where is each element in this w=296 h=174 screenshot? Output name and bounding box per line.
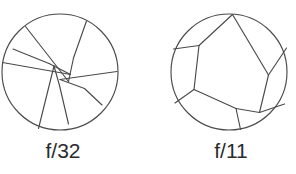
aperture-left-svg [0,0,130,140]
aperture-barrel-circle [2,14,118,130]
aperture-blade [74,21,87,58]
aperture-blade [39,66,55,129]
aperture-blade [60,86,69,125]
aperture-label-f32: f/32 [0,140,128,161]
aperture-blade [194,90,236,109]
aperture-blade [175,90,194,104]
aperture-blade [194,46,199,90]
aperture-blade [13,49,49,64]
aperture-right-svg [160,0,296,140]
aperture-blade [3,63,71,75]
aperture-diagram-f11: f/11 [160,0,296,174]
aperture-label-f11: f/11 [163,140,296,161]
aperture-blade [60,72,117,80]
aperture-blade [236,109,241,130]
aperture-diagram-f32: f/32 [0,0,130,174]
aperture-blade [269,48,287,75]
figure-root: f/32 f/11 [0,0,296,174]
aperture-blade [60,80,85,89]
aperture-blade [236,109,260,113]
aperture-blade [85,89,103,106]
aperture-blade [260,75,269,113]
aperture-blade [233,15,269,76]
aperture-barrel-circle [171,14,287,130]
